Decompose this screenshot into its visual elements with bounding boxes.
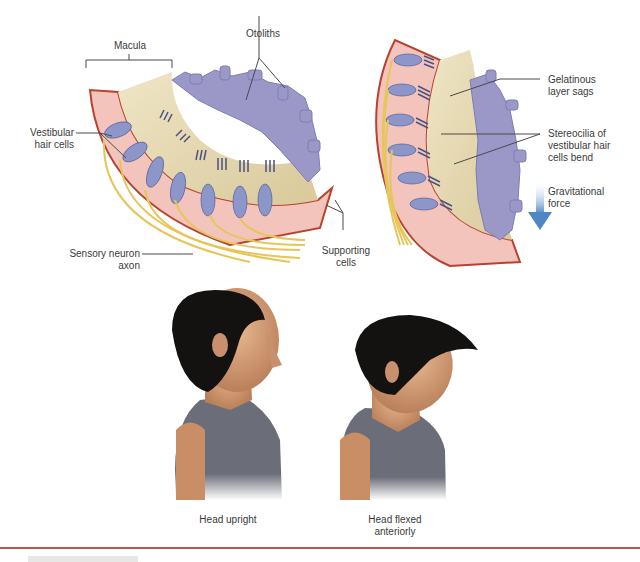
gelatinous-layer-label: Gelatinous layer sags: [548, 74, 638, 98]
figure-caption-cropped: [28, 556, 138, 562]
gravitational-force-label: Gravitational force: [548, 186, 638, 210]
otoliths-label: Otoliths: [238, 28, 288, 40]
macula-label: Macula: [100, 40, 160, 52]
head-upright-figure: [172, 288, 282, 500]
head-flexed-caption: Head flexed anteriorly: [345, 514, 445, 538]
macula-tilted-diagram: [376, 40, 552, 266]
macula-upright-diagram: [76, 16, 343, 262]
head-flexed-figure: [340, 309, 478, 500]
sensory-neuron-axon-label: Sensory neuron axon: [40, 248, 140, 272]
supporting-cells-label: Supporting cells: [316, 245, 376, 269]
caption-divider: [0, 547, 640, 549]
vestibular-hair-cells-label: Vestibular hair cells: [10, 127, 74, 151]
macula-illustration: [0, 0, 640, 562]
stereocilia-label: Stereocilia of vestibular hair cells ben…: [548, 128, 638, 164]
head-upright-caption: Head upright: [178, 514, 278, 526]
